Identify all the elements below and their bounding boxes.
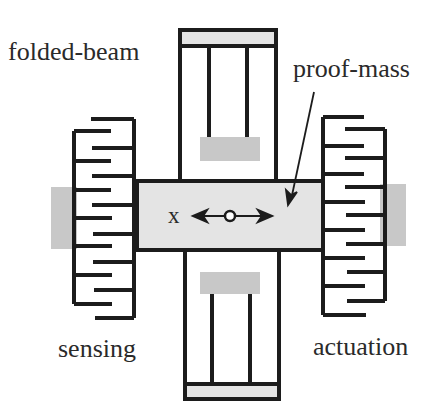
- axis-label-x: x: [168, 203, 180, 228]
- center-point-icon: [225, 211, 235, 221]
- label-proof-mass: proof-mass: [293, 54, 410, 83]
- label-actuation: actuation: [313, 332, 408, 361]
- right-actuation-comb: [323, 117, 385, 315]
- left-sensing-comb: [74, 119, 134, 318]
- label-folded-beam: folded-beam: [8, 37, 139, 66]
- motion-arrow: [193, 210, 272, 222]
- bottom-anchor: [200, 272, 260, 294]
- top-anchor: [200, 137, 260, 161]
- label-sensing: sensing: [58, 334, 136, 363]
- mems-diagram: x folded-beam proof-mass sensing actuati…: [0, 0, 447, 419]
